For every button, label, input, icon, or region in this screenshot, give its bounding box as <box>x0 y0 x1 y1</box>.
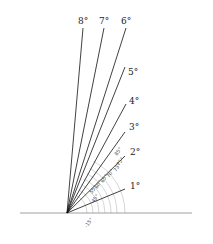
ray-label: 5° <box>128 67 138 77</box>
ray-4 <box>67 67 125 213</box>
ray-label: 6° <box>121 16 131 26</box>
ray-label: 8° <box>78 16 88 26</box>
ray-label: 3° <box>129 122 139 132</box>
ray-label: 1° <box>130 181 140 191</box>
angle-label: -15° <box>83 216 94 229</box>
angle-diagram: 8°7°6°5°4°3°2°1° 85°75°73°70°65°60°55°45… <box>0 0 213 244</box>
ray-label: 7° <box>99 16 109 26</box>
ray-labels: 8°7°6°5°4°3°2°1° <box>78 16 140 191</box>
ray-label: 2° <box>130 147 140 157</box>
ray-label: 4° <box>129 96 139 106</box>
ray-1 <box>67 28 83 213</box>
